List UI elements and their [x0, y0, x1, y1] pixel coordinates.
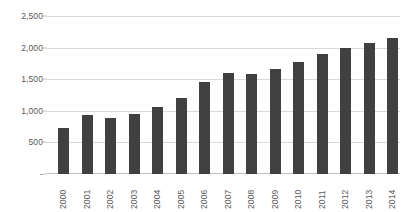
x-axis-tick-2012: 2012 — [340, 175, 351, 186]
y-axis-tick-1500: 1,500 — [0, 75, 43, 84]
bar-2012 — [340, 48, 351, 173]
x-axis-labels: 2000 2001 2002 2003 2004 2005 2006 2007 … — [47, 175, 400, 212]
x-axis-tick-2008: 2008 — [246, 175, 257, 186]
bar-2006 — [199, 82, 210, 174]
x-axis-tick-2011: 2011 — [317, 175, 328, 186]
x-axis-tick-2006: 2006 — [199, 175, 210, 186]
bar-2003 — [129, 114, 140, 174]
bar-2007 — [223, 73, 234, 173]
x-axis-tick-2007: 2007 — [223, 175, 234, 186]
y-axis-tick-2000: 2,000 — [0, 43, 43, 52]
bar-2000 — [58, 128, 69, 174]
x-axis-tick-2010: 2010 — [293, 175, 304, 186]
x-axis-tick-2013: 2013 — [364, 175, 375, 186]
x-axis-tick-2001: 2001 — [82, 175, 93, 186]
bar-2014 — [387, 38, 398, 173]
bar-2004 — [152, 107, 163, 174]
x-axis-tick-2003: 2003 — [129, 175, 140, 186]
bar-2008 — [246, 74, 257, 173]
x-axis-tick-2009: 2009 — [270, 175, 281, 186]
y-axis-tick-1000: 1,000 — [0, 106, 43, 115]
bar-series — [47, 16, 400, 174]
y-axis-tick-500: 500 — [0, 138, 43, 147]
y-axis-labels: 2,500 2,000 1,500 1,000 500 - — [0, 0, 43, 212]
bar-2009 — [270, 69, 281, 173]
x-axis-tick-2002: 2002 — [105, 175, 116, 186]
y-axis-tick-0: - — [0, 169, 43, 178]
bar-2010 — [293, 62, 304, 174]
y-axis-tick-2500: 2,500 — [0, 12, 43, 21]
bar-2013 — [364, 43, 375, 174]
bar-chart: 2,500 2,000 1,500 1,000 500 - 2000 2001 … — [0, 0, 403, 212]
bar-2011 — [317, 54, 328, 173]
x-axis-tick-2005: 2005 — [176, 175, 187, 186]
bar-2001 — [82, 115, 93, 173]
x-axis-tick-2014: 2014 — [387, 175, 398, 186]
bar-2005 — [176, 98, 187, 174]
x-axis-tick-2004: 2004 — [152, 175, 163, 186]
bar-2002 — [105, 118, 116, 173]
x-axis-tick-2000: 2000 — [58, 175, 69, 186]
